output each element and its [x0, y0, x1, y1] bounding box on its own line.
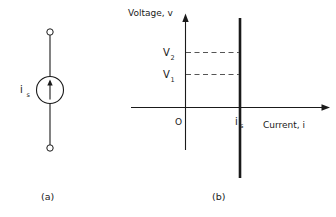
top-terminal-node-icon [47, 29, 53, 35]
v2-label: V [163, 47, 170, 58]
v1-label-subscript: 1 [171, 76, 175, 84]
panel-b-iv-plot: V 2 V 1 Voltage, v Current, i O i s (b) [128, 8, 330, 202]
bottom-terminal-node-icon [47, 145, 53, 151]
x-tick-label: i [235, 116, 238, 127]
v1-label: V [163, 69, 170, 80]
y-axis-arrow-icon [182, 14, 188, 23]
x-axis-arrow-icon [322, 104, 331, 110]
origin-label: O [175, 117, 182, 127]
panel-a-caption: (a) [41, 191, 54, 202]
figure-container: i s (a) V 2 V 1 Voltage, v Current, i O … [0, 0, 336, 217]
x-tick-label-subscript: s [240, 122, 244, 130]
source-label: i [20, 84, 23, 95]
panel-b-caption: (b) [212, 191, 225, 202]
x-axis-label: Current, i [263, 120, 305, 130]
source-label-subscript: s [27, 91, 31, 99]
v2-label-subscript: 2 [171, 54, 175, 62]
y-axis-label: Voltage, v [128, 8, 173, 18]
panel-a-current-source: i s (a) [20, 29, 64, 202]
figure-svg: i s (a) V 2 V 1 Voltage, v Current, i O … [0, 0, 336, 217]
